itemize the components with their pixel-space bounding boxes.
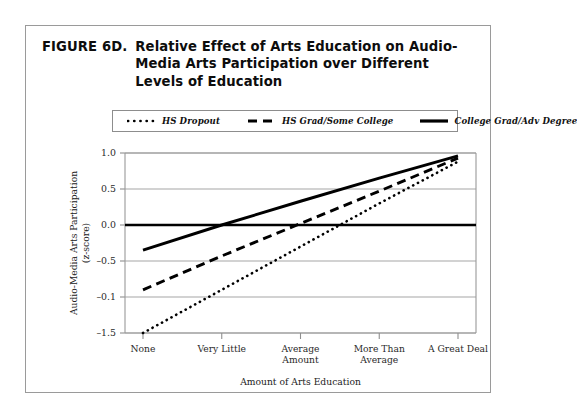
series-line-dotted (143, 162, 458, 333)
x-tick-label: Very Little (196, 343, 246, 354)
y-tick-label: –0.5 (96, 255, 116, 266)
x-tick-label-line2: Amount (281, 354, 319, 365)
x-tick-label: None (131, 343, 156, 354)
y-tickmarks (120, 153, 125, 333)
y-axis-title: Audio-Media Arts Participation (z-score) (68, 171, 91, 316)
x-tick-label-line2: Average (359, 354, 398, 365)
y-tick-label: 0.0 (101, 219, 116, 230)
y-tick-label: –1.5 (96, 327, 116, 338)
x-tick-label: A Great Deal (427, 343, 488, 354)
figure-frame: FIGURE 6D. Relative Effect of Arts Educa… (25, 25, 491, 393)
y-axis-title-line2: (z-score) (80, 223, 91, 263)
y-tick-label: 0.5 (101, 183, 116, 194)
x-tick-labels: NoneVery LittleAverageAmountMore ThanAve… (131, 343, 489, 365)
x-axis-title: Amount of Arts Education (239, 376, 361, 387)
y-tick-labels: 1.00.50.0–0.5–0.1–1.5 (96, 147, 116, 338)
y-tick-label: 1.0 (101, 147, 116, 158)
y-tick-label: –0.1 (96, 291, 116, 302)
series-line-solid (143, 156, 458, 250)
y-axis-title-line1: Audio-Media Arts Participation (68, 171, 79, 316)
x-tick-label: Average (280, 343, 319, 354)
data-series (143, 156, 458, 333)
x-tickmarks (143, 333, 458, 339)
chart-plot-area: 1.00.50.0–0.5–0.1–1.5 NoneVery LittleAve… (26, 26, 492, 394)
x-tick-label: More Than (354, 343, 405, 354)
chart-svg: 1.00.50.0–0.5–0.1–1.5 NoneVery LittleAve… (26, 26, 492, 394)
